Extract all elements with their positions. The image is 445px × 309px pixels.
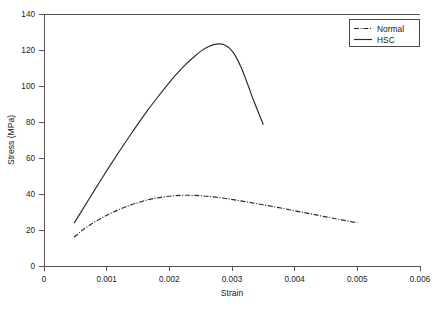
legend-label-hsc: HSC <box>377 35 395 45</box>
chart-legend: Normal HSC <box>349 19 419 46</box>
y-tick-label: 40 <box>26 190 36 199</box>
y-tick-label: 20 <box>26 226 36 235</box>
x-axis-tick-labels: 0 0.001 0.002 0.003 0.004 0.005 0.006 <box>42 275 431 284</box>
y-axis-ticks <box>39 14 44 266</box>
x-axis-title: Strain <box>221 288 244 298</box>
legend-label-normal: Normal <box>377 24 404 34</box>
x-tick-label: 0.006 <box>410 275 431 284</box>
x-axis-ticks <box>44 266 420 271</box>
y-tick-label: 80 <box>26 118 36 127</box>
y-tick-label: 0 <box>30 262 35 271</box>
x-tick-label: 0.001 <box>96 275 117 284</box>
y-axis-title: Stress (MPa) <box>6 115 16 165</box>
y-axis-tick-labels: 0 20 40 60 80 100 120 140 <box>21 10 35 271</box>
y-tick-label: 100 <box>21 82 35 91</box>
chart-canvas: 0 20 40 60 80 100 120 140 0 0.001 0.002 … <box>0 0 445 309</box>
y-tick-label: 120 <box>21 46 35 55</box>
series-line-normal <box>74 195 357 237</box>
x-tick-label: 0.003 <box>222 275 243 284</box>
stress-strain-chart-figure: 0 20 40 60 80 100 120 140 0 0.001 0.002 … <box>0 0 445 309</box>
y-tick-label: 140 <box>21 10 35 19</box>
y-tick-label: 60 <box>26 154 36 163</box>
x-tick-label: 0.002 <box>159 275 180 284</box>
x-tick-label: 0.004 <box>284 275 305 284</box>
x-tick-label: 0 <box>42 275 47 284</box>
x-tick-label: 0.005 <box>347 275 368 284</box>
